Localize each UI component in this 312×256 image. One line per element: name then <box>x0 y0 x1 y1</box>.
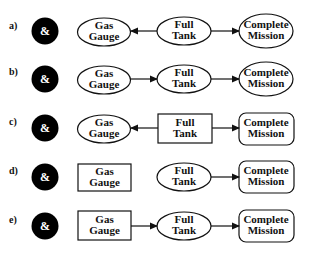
node-text: Mission <box>248 127 285 139</box>
row-label: b) <box>9 66 18 78</box>
row-label: d) <box>9 165 18 177</box>
node-text: Tank <box>173 127 198 139</box>
node-text: Mission <box>248 224 285 236</box>
diagram-canvas: a) & Gas Gauge Full Tank Complete Missio… <box>0 0 312 256</box>
node-text: Mission <box>248 29 285 41</box>
and-symbol: & <box>40 121 50 135</box>
row-label: c) <box>9 116 17 128</box>
row-a: a) & Gas Gauge Full Tank Complete Missio… <box>9 14 293 48</box>
node-text: Gauge <box>89 78 120 90</box>
node-text: Gauge <box>89 224 120 236</box>
row-c: c) & Gas Gauge Full Tank Complete Missio… <box>9 113 294 145</box>
node-text: Gauge <box>89 127 120 139</box>
row-e: e) & Gas Gauge Full Tank Complete Missio… <box>9 210 294 242</box>
and-symbol: & <box>40 72 50 86</box>
and-symbol: & <box>40 219 50 233</box>
node-text: Mission <box>248 77 285 89</box>
node-text: Tank <box>172 175 197 187</box>
node-text: Tank <box>172 77 197 89</box>
and-symbol: & <box>40 24 50 38</box>
row-d: d) & Gas Gauge Full Tank Complete Missio… <box>9 161 294 193</box>
node-text: Mission <box>248 175 285 187</box>
node-text: Tank <box>172 224 197 236</box>
row-b: b) & Gas Gauge Full Tank Complete Missio… <box>9 62 293 96</box>
row-label: e) <box>9 214 17 226</box>
node-text: Tank <box>172 29 197 41</box>
node-text: Gauge <box>89 176 120 188</box>
node-text: Gauge <box>89 30 120 42</box>
and-symbol: & <box>40 170 50 184</box>
row-label: a) <box>9 20 17 32</box>
